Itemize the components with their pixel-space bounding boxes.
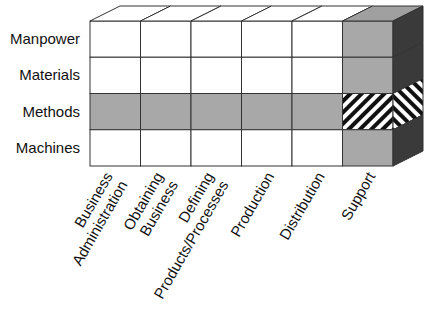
cell-manpower-4 [292, 21, 343, 57]
side-face [393, 6, 423, 166]
column-labels: BusinessAdministrationObtainingBusinessD… [68, 168, 378, 301]
top-face [90, 6, 423, 21]
row-labels: ManpowerMaterialsMethodsMachines [10, 30, 80, 156]
row-label-materials: Materials [19, 66, 80, 83]
cell-materials-3 [242, 57, 293, 93]
matrix-cube-diagram: ManpowerMaterialsMethodsMachines Busines… [0, 0, 434, 311]
cell-methods-4 [292, 94, 343, 130]
cell-methods-3 [242, 94, 293, 130]
cell-methods-5 [343, 94, 394, 130]
cell-machines-3 [242, 130, 293, 166]
cell-materials-1 [141, 57, 192, 93]
column-label-line: Distribution [276, 169, 328, 242]
row-label-manpower: Manpower [10, 30, 80, 47]
cell-manpower-2 [191, 21, 242, 57]
cell-materials-5 [343, 57, 394, 93]
cell-methods-1 [141, 94, 192, 130]
cell-machines-1 [141, 130, 192, 166]
column-label-line: Production [227, 169, 278, 240]
cell-manpower-3 [242, 21, 293, 57]
cell-manpower-1 [141, 21, 192, 57]
cell-machines-4 [292, 130, 343, 166]
cell-manpower-5 [343, 21, 394, 57]
cell-manpower-0 [90, 21, 141, 57]
cell-methods-0 [90, 94, 141, 130]
cube-graphic: ManpowerMaterialsMethodsMachines Busines… [0, 0, 434, 311]
front-face [90, 21, 393, 166]
cell-methods-2 [191, 94, 242, 130]
cell-machines-2 [191, 130, 242, 166]
row-label-machines: Machines [16, 139, 80, 156]
cell-materials-2 [191, 57, 242, 93]
cell-machines-5 [343, 130, 394, 166]
row-label-methods: Methods [22, 103, 80, 120]
cell-machines-0 [90, 130, 141, 166]
cell-materials-4 [292, 57, 343, 93]
column-label-line: Support [337, 168, 378, 223]
cell-materials-0 [90, 57, 141, 93]
